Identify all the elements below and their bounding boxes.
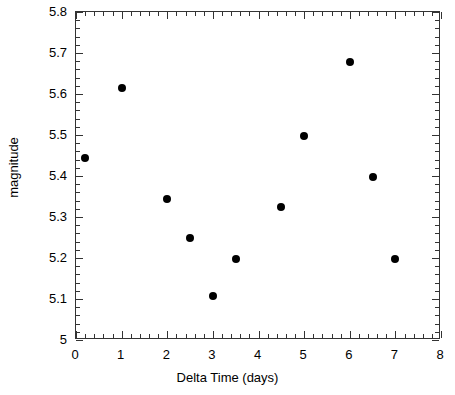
x-tick-major-top xyxy=(350,12,351,19)
y-tick-minor xyxy=(76,324,80,325)
x-tick-minor-top xyxy=(140,12,141,16)
x-tick-label: 8 xyxy=(436,347,443,362)
x-tick-label: 4 xyxy=(254,347,261,362)
x-tick-minor-top xyxy=(222,12,223,16)
y-tick-minor xyxy=(76,307,80,308)
x-tick-minor xyxy=(295,334,296,338)
y-tick-minor xyxy=(76,283,80,284)
y-tick-minor-right xyxy=(435,119,439,120)
x-tick-minor xyxy=(140,334,141,338)
y-tick-minor xyxy=(76,143,80,144)
x-tick-major-top xyxy=(167,12,168,19)
y-tick-major xyxy=(76,53,83,54)
y-tick-minor xyxy=(76,192,80,193)
y-tick-minor-right xyxy=(435,86,439,87)
y-tick-minor-right xyxy=(435,160,439,161)
x-tick-major xyxy=(304,331,305,338)
x-tick-minor-top xyxy=(204,12,205,16)
y-tick-minor xyxy=(76,225,80,226)
y-tick-minor-right xyxy=(435,291,439,292)
data-point xyxy=(209,292,217,300)
x-tick-minor xyxy=(176,334,177,338)
y-tick-minor xyxy=(76,274,80,275)
y-tick-minor-right xyxy=(435,233,439,234)
y-tick-minor xyxy=(76,184,80,185)
x-tick-label: 2 xyxy=(163,347,170,362)
y-tick-minor-right xyxy=(435,78,439,79)
y-tick-minor-right xyxy=(435,201,439,202)
y-tick-minor-right xyxy=(435,151,439,152)
x-tick-label: 5 xyxy=(300,347,307,362)
x-tick-minor-top xyxy=(277,12,278,16)
y-tick-minor xyxy=(76,201,80,202)
y-tick-minor-right xyxy=(435,28,439,29)
x-tick-minor xyxy=(195,334,196,338)
data-point xyxy=(346,58,354,66)
y-tick-minor xyxy=(76,291,80,292)
y-tick-label: 5.6 xyxy=(22,86,67,101)
x-tick-minor xyxy=(423,334,424,338)
x-tick-minor-top xyxy=(240,12,241,16)
y-tick-major-right xyxy=(432,299,439,300)
y-tick-minor-right xyxy=(435,110,439,111)
x-tick-minor-top xyxy=(359,12,360,16)
y-tick-minor-right xyxy=(435,250,439,251)
data-point xyxy=(300,132,308,140)
x-tick-major-top xyxy=(76,12,77,19)
y-tick-minor xyxy=(76,37,80,38)
y-tick-major xyxy=(76,217,83,218)
y-tick-major-right xyxy=(432,340,439,341)
y-tick-minor-right xyxy=(435,143,439,144)
y-tick-major-right xyxy=(432,53,439,54)
x-tick-minor xyxy=(377,334,378,338)
y-tick-minor-right xyxy=(435,20,439,21)
x-tick-major xyxy=(122,331,123,338)
data-point xyxy=(118,84,126,92)
y-tick-minor-right xyxy=(435,102,439,103)
x-tick-minor-top xyxy=(131,12,132,16)
y-tick-minor xyxy=(76,151,80,152)
x-tick-minor-top xyxy=(386,12,387,16)
x-tick-major xyxy=(167,331,168,338)
x-tick-minor-top xyxy=(249,12,250,16)
x-tick-minor xyxy=(222,334,223,338)
x-tick-minor xyxy=(158,334,159,338)
y-tick-minor-right xyxy=(435,168,439,169)
y-tick-minor-right xyxy=(435,274,439,275)
x-tick-minor xyxy=(359,334,360,338)
y-tick-minor xyxy=(76,127,80,128)
data-point xyxy=(277,203,285,211)
x-tick-minor-top xyxy=(286,12,287,16)
x-tick-minor-top xyxy=(295,12,296,16)
x-tick-minor-top xyxy=(405,12,406,16)
y-tick-major-right xyxy=(432,258,439,259)
x-tick-minor-top xyxy=(268,12,269,16)
x-tick-minor-top xyxy=(377,12,378,16)
y-tick-minor-right xyxy=(435,332,439,333)
y-tick-major xyxy=(76,94,83,95)
scatter-plot-figure: 012345678 55.15.25.35.45.55.65.75.8 Delt… xyxy=(0,0,455,395)
x-tick-minor xyxy=(249,334,250,338)
x-tick-label: 3 xyxy=(208,347,215,362)
x-tick-minor-top xyxy=(158,12,159,16)
x-tick-minor xyxy=(85,334,86,338)
x-tick-minor xyxy=(341,334,342,338)
x-tick-minor xyxy=(277,334,278,338)
y-tick-label: 5.3 xyxy=(22,209,67,224)
data-point xyxy=(232,255,240,263)
x-tick-major-top xyxy=(304,12,305,19)
x-tick-minor xyxy=(103,334,104,338)
y-tick-major xyxy=(76,340,83,341)
y-tick-major-right xyxy=(432,12,439,13)
y-tick-label: 5 xyxy=(22,332,67,347)
x-tick-label: 6 xyxy=(345,347,352,362)
x-tick-major xyxy=(395,331,396,338)
x-tick-major xyxy=(213,331,214,338)
x-tick-minor xyxy=(94,334,95,338)
y-tick-major-right xyxy=(432,217,439,218)
x-tick-label: 1 xyxy=(117,347,124,362)
x-tick-major-top xyxy=(441,12,442,19)
y-tick-minor xyxy=(76,332,80,333)
y-tick-minor-right xyxy=(435,225,439,226)
x-tick-minor xyxy=(186,334,187,338)
